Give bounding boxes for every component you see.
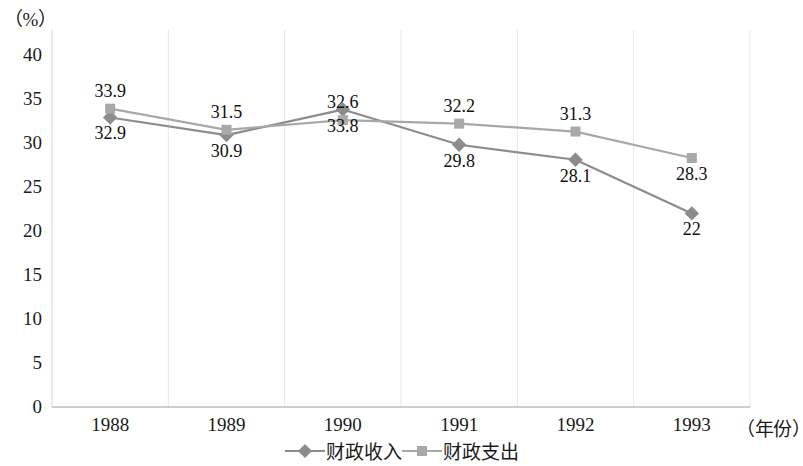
data-label: 31.3 xyxy=(560,104,592,125)
data-label: 32.9 xyxy=(94,123,126,144)
data-label: 33.8 xyxy=(327,116,359,137)
chart-container: （%） （年份） 4035302520151050 19881989199019… xyxy=(0,0,803,466)
square-marker-icon xyxy=(454,119,464,129)
square-marker-icon xyxy=(105,104,115,114)
data-label: 30.9 xyxy=(211,141,243,162)
data-label: 22 xyxy=(683,219,701,240)
chart-legend: 财政收入财政支出 xyxy=(0,437,803,464)
gridlines xyxy=(168,30,750,407)
diamond-marker-icon xyxy=(285,444,325,458)
square-marker-icon xyxy=(402,444,442,458)
legend-label: 财政支出 xyxy=(443,437,519,464)
legend-item-2[interactable]: 财政支出 xyxy=(402,437,519,464)
data-label: 29.8 xyxy=(443,151,475,172)
data-label: 33.9 xyxy=(94,81,126,102)
diamond-marker-icon xyxy=(297,443,311,457)
data-label: 31.5 xyxy=(211,102,243,123)
legend-item-1[interactable]: 财政收入 xyxy=(285,437,402,464)
data-label: 32.6 xyxy=(327,92,359,113)
data-label: 28.3 xyxy=(676,164,708,185)
data-label: 28.1 xyxy=(560,166,592,187)
square-marker-icon xyxy=(222,125,232,135)
square-marker-icon xyxy=(687,153,697,163)
legend-label: 财政收入 xyxy=(326,437,402,464)
square-marker-icon xyxy=(417,446,427,456)
data-label: 32.2 xyxy=(443,96,475,117)
square-marker-icon xyxy=(571,127,581,137)
